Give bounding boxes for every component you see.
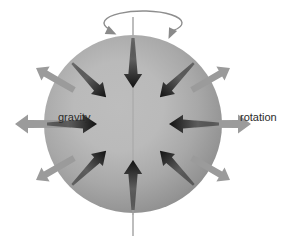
gravity-rotation-diagram: gravity rotation — [0, 0, 286, 241]
gravity-label: gravity — [58, 111, 91, 123]
figure-root: gravity rotation — [0, 0, 286, 241]
rotation-label: rotation — [240, 111, 277, 123]
